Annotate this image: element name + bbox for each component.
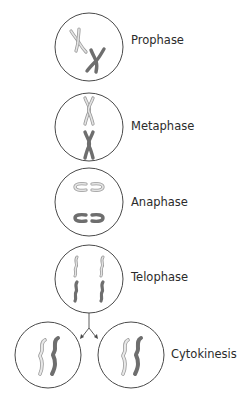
- cell-anaphase: [55, 168, 123, 236]
- cell-cytokinesis-left: [15, 322, 81, 388]
- cell-prophase: [55, 13, 123, 81]
- cell-metaphase: [55, 93, 123, 161]
- label-cytokinesis: Cytokinesis: [171, 347, 237, 361]
- cell-cytokinesis-right: [98, 322, 164, 388]
- label-prophase: Prophase: [131, 33, 184, 47]
- label-anaphase: Anaphase: [131, 195, 188, 209]
- split-arrow-icon: [80, 313, 98, 339]
- label-telophase: Telophase: [131, 270, 188, 284]
- mitosis-diagram: [0, 0, 246, 401]
- cell-telophase: [55, 245, 123, 313]
- label-metaphase: Metaphase: [131, 119, 194, 133]
